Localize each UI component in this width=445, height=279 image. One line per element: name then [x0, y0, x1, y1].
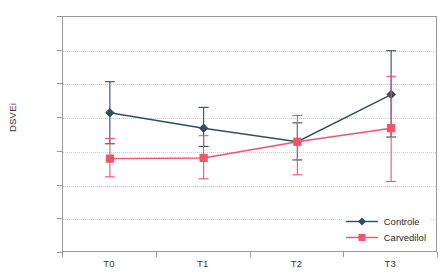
x-axis-tick-mark	[62, 252, 63, 257]
legend-marker-icon	[345, 232, 379, 243]
legend-marker-icon	[345, 216, 379, 227]
x-axis-tick-mark	[343, 252, 344, 257]
x-axis-tick-label: T0	[103, 258, 114, 269]
series-controle	[105, 51, 396, 160]
x-axis-tick-mark	[250, 252, 251, 257]
x-axis-tick-label: T1	[197, 258, 208, 269]
x-axis-tick-label: T2	[291, 258, 302, 269]
plot-area: ControleCarvedilol	[62, 16, 437, 252]
legend-item-carvedilol[interactable]: Carvedilol	[345, 232, 426, 243]
y-axis-title: DSVEi	[7, 88, 18, 148]
legend-label: Carvedilol	[384, 232, 426, 243]
series-carvedilol	[105, 76, 396, 181]
legend-item-controle[interactable]: Controle	[345, 216, 426, 227]
chart-legend: ControleCarvedilol	[343, 214, 430, 245]
x-axis-tick-mark	[156, 252, 157, 257]
x-axis-tick-label: T3	[385, 258, 396, 269]
legend-label: Controle	[384, 216, 420, 227]
chart-figure: DSVEi 4,04,55,05,56,06,57,07,5 T0T1T2T3 …	[0, 0, 445, 279]
x-axis-tick-mark	[437, 252, 438, 257]
